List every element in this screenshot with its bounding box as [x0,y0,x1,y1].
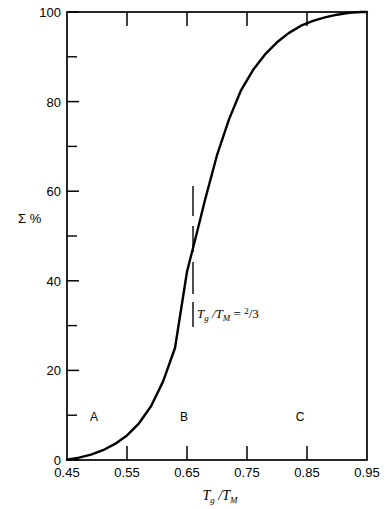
y-tick-label: 80 [47,95,61,110]
chart-background [0,0,390,509]
region-label-b: B [180,410,188,424]
region-label-a: A [90,410,98,424]
y-tick-label: 100 [39,5,61,20]
x-tick-label: 0.85 [294,465,319,480]
y-tick-label: 60 [47,184,61,199]
x-tick-label: 0.95 [354,465,379,480]
y-axis-title: Σ % [18,211,42,226]
x-tick-label: 0.45 [54,465,79,480]
chart-figure: 0 20 40 60 80 100 0.45 0.55 0.65 0.75 0.… [0,0,390,509]
y-tick-label: 20 [47,363,61,378]
x-tick-label: 0.75 [234,465,259,480]
x-tick-label: 0.65 [174,465,199,480]
region-label-c: C [296,410,305,424]
sigma-percent-vs-tg-tm-chart: 0 20 40 60 80 100 0.45 0.55 0.65 0.75 0.… [0,0,390,509]
x-tick-label: 0.55 [114,465,139,480]
y-tick-label: 40 [47,274,61,289]
